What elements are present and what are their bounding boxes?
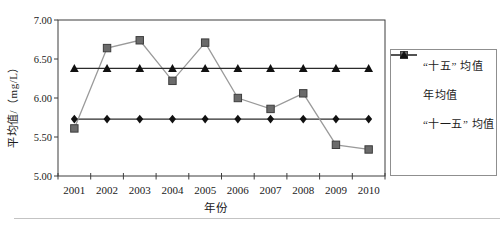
legend-label: “十五” 均值 [423,57,483,73]
legend-item-nianjun: 年均值 [391,79,496,108]
chart-figure: 5.005.506.006.507.0020012002200320042005… [0,0,502,225]
square-point [267,105,274,112]
legend-label: 年均值 [423,86,458,102]
x-tick-label: 2003 [129,184,152,196]
x-tick-label: 2002 [96,184,118,196]
diamond-point [136,115,143,124]
square-point [234,94,241,101]
x-axis-title: 年份 [188,199,244,215]
square-point [201,39,208,46]
page-rule-line [14,218,500,219]
diamond-point [300,115,307,124]
x-tick-label: 2006 [227,184,250,196]
square-marker-icon [394,89,420,99]
diamond-point [234,115,241,124]
square-point [332,141,339,148]
square-point [300,90,307,97]
y-tick-label: 5.00 [34,171,52,182]
diamond-point [332,115,339,124]
diamond-marker-icon [394,60,420,70]
x-tick-label: 2005 [194,184,217,196]
diamond-point [169,115,176,124]
diamond-point [104,115,111,124]
diamond-point [202,115,209,124]
x-tick-label: 2004 [161,184,184,196]
square-point [136,37,143,44]
diamond-point [267,115,274,124]
y-tick-label: 5.50 [34,132,52,143]
x-tick-label: 2009 [325,184,348,196]
y-axis-title: 平均值/（mg/L） [4,35,19,175]
diamond-point [365,115,372,124]
y-tick-label: 6.50 [34,54,52,65]
triangle-marker-icon [394,118,420,128]
x-tick-label: 2007 [260,184,283,196]
y-tick-label: 6.00 [34,93,52,104]
square-point [169,77,176,84]
square-point [103,44,110,51]
x-tick-label: 2001 [63,184,85,196]
legend-label: “十一五” 均值 [423,115,495,131]
x-tick-label: 2008 [292,184,315,196]
legend-item-shiyiwu: “十一五” 均值 [391,108,496,137]
plot-border [58,20,385,176]
square-point [365,146,372,153]
series-line-square [74,40,368,149]
y-tick-label: 7.00 [34,15,52,26]
x-tick-label: 2010 [358,184,381,196]
legend: “十五” 均值 年均值 “十一五” 均值 [390,49,497,176]
square-point [71,125,78,132]
